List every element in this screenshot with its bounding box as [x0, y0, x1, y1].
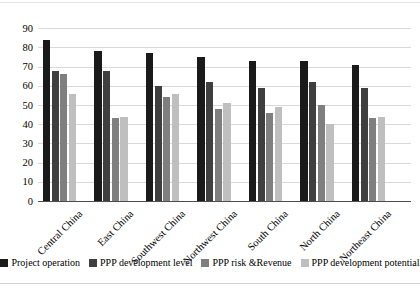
bar — [52, 71, 59, 201]
y-tick-label: 40 — [7, 118, 33, 131]
bar — [69, 94, 76, 201]
bar — [172, 94, 179, 201]
y-tick-label: 90 — [7, 22, 33, 35]
ppp-grouped-bar-chart: 0102030405060708090Central ChinaEast Chi… — [0, 0, 420, 287]
bar — [369, 118, 376, 201]
bar — [146, 53, 153, 201]
bar — [249, 61, 256, 201]
chart-legend: Project operationPPP development levelPP… — [0, 257, 420, 269]
y-tick-label: 80 — [7, 41, 33, 54]
gridline — [38, 28, 411, 29]
bar — [60, 74, 67, 201]
bar — [103, 71, 110, 201]
legend-item: Project operation — [0, 257, 80, 269]
legend-item: PPP development potential — [301, 257, 420, 269]
legend-item: PPP risk &Revenue — [201, 257, 291, 269]
gridline — [38, 47, 411, 48]
bar — [155, 86, 162, 201]
legend-swatch-icon — [89, 259, 97, 267]
legend-swatch-icon — [301, 259, 309, 267]
y-tick-label: 60 — [7, 79, 33, 92]
bar — [215, 109, 222, 201]
bar — [378, 117, 385, 201]
legend-item: PPP development level — [89, 257, 192, 269]
legend-label: PPP risk &Revenue — [212, 257, 291, 269]
bar — [206, 82, 213, 201]
legend-label: Project operation — [11, 257, 80, 269]
bar — [266, 113, 273, 201]
bar — [223, 103, 230, 201]
x-category-label: North China — [297, 208, 342, 253]
bar — [258, 88, 265, 201]
bar — [43, 40, 50, 201]
bar — [309, 82, 316, 201]
bar — [275, 107, 282, 201]
bar — [318, 105, 325, 201]
y-tick-label: 10 — [7, 175, 33, 188]
x-category-label: Central China — [35, 208, 85, 258]
y-tick-label: 70 — [7, 60, 33, 73]
bar — [112, 118, 119, 201]
y-tick-label: 30 — [7, 137, 33, 150]
x-axis-line — [38, 201, 411, 202]
x-category-label: South China — [246, 208, 291, 253]
legend-label: PPP development potential — [312, 257, 420, 269]
bar — [163, 97, 170, 201]
plot-area: 0102030405060708090Central ChinaEast Chi… — [0, 0, 420, 287]
figure-bottom-border — [0, 283, 420, 284]
bar — [326, 124, 333, 201]
y-tick-label: 0 — [7, 195, 33, 208]
bar — [300, 61, 307, 201]
y-tick-label: 50 — [7, 99, 33, 112]
bar — [352, 65, 359, 201]
legend-label: PPP development level — [100, 257, 192, 269]
y-tick-label: 20 — [7, 156, 33, 169]
bar — [94, 51, 101, 201]
bar — [120, 117, 127, 201]
bar — [361, 88, 368, 201]
x-category-label: East China — [96, 208, 137, 249]
legend-swatch-icon — [201, 259, 209, 267]
bar — [197, 57, 204, 201]
legend-swatch-icon — [0, 259, 8, 267]
